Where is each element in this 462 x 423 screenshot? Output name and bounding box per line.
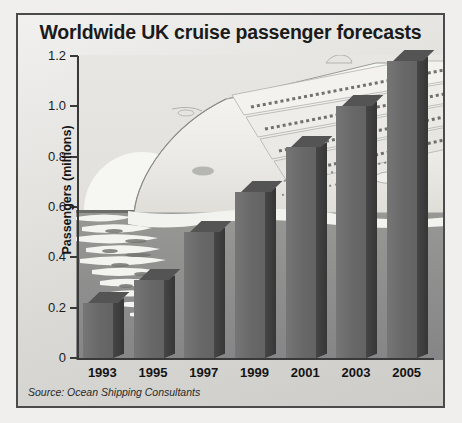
- bar-1993: [83, 303, 124, 358]
- plot-area: [78, 57, 433, 358]
- bar-1997: [184, 232, 225, 358]
- source-note: Source: Ocean Shipping Consultants: [28, 386, 200, 398]
- bar-front-face: [134, 280, 164, 358]
- y-axis-tick-label: 1.2: [22, 48, 66, 63]
- bar-front-face: [235, 192, 265, 358]
- y-axis-tick-label: 0: [22, 350, 66, 365]
- x-axis-tick-label: 1993: [77, 365, 128, 380]
- y-axis-tick-label: 0.2: [22, 300, 66, 315]
- chart-title: Worldwide UK cruise passenger forecasts: [18, 21, 443, 44]
- x-axis-tick-label: 1995: [128, 365, 179, 380]
- chart-figure-frame: Worldwide UK cruise passenger forecasts: [16, 13, 445, 408]
- x-axis-tick-label: 2003: [331, 365, 382, 380]
- bar-side-face: [164, 276, 175, 358]
- bar-side-face: [214, 228, 225, 358]
- bar-1999: [235, 192, 276, 358]
- bar-front-face: [387, 61, 417, 358]
- x-axis-tick-label: 1999: [229, 365, 280, 380]
- bar-front-face: [286, 147, 316, 358]
- x-axis-line: [77, 358, 434, 360]
- y-axis-tick: [70, 55, 78, 57]
- bar-front-face: [83, 303, 113, 358]
- bar-2003: [336, 106, 377, 358]
- x-axis-tick-label: 1997: [178, 365, 229, 380]
- bar-side-face: [316, 142, 327, 358]
- bar-1995: [134, 280, 175, 358]
- bar-side-face: [366, 102, 377, 358]
- y-axis-tick: [70, 357, 78, 359]
- bar-top-face: [342, 95, 383, 106]
- bar-side-face: [417, 57, 428, 358]
- chart-page: Worldwide UK cruise passenger forecasts: [0, 0, 462, 423]
- x-axis-tick-label: 2005: [381, 365, 432, 380]
- bar-front-face: [184, 232, 214, 358]
- bar-side-face: [265, 187, 276, 358]
- bar-2005: [387, 61, 428, 358]
- y-axis-tick: [70, 307, 78, 309]
- x-axis-tick-label: 2001: [280, 365, 331, 380]
- y-axis-tick-labels: 00.20.40.60.81.01.2: [18, 15, 66, 408]
- y-axis-title: Passengers (millions): [60, 95, 74, 285]
- bar-side-face: [113, 298, 124, 358]
- bar-front-face: [336, 106, 366, 358]
- bar-2001: [286, 147, 327, 358]
